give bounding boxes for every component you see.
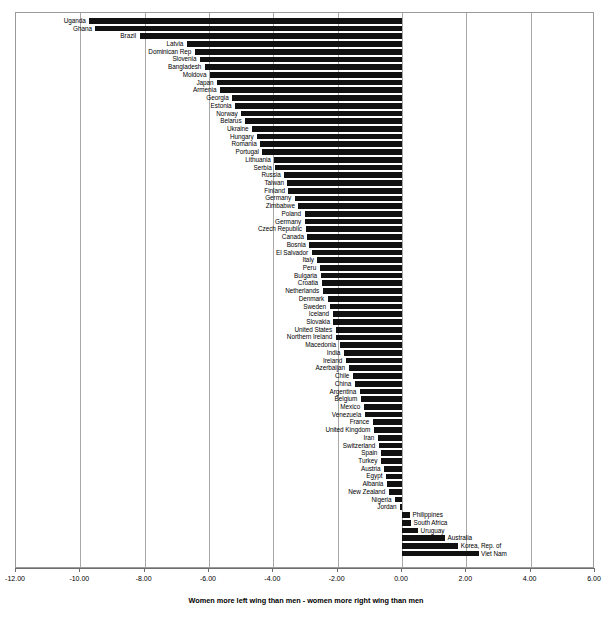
chart-row: Ghana: [16, 25, 593, 33]
bar-label: Croatia: [298, 279, 318, 287]
chart-row: Austria: [16, 465, 593, 473]
bar-label: New Zealand: [348, 488, 385, 496]
bar-label: Brazil: [120, 32, 136, 40]
chart-row: Egypt: [16, 473, 593, 481]
bar-label: Philippines: [413, 511, 443, 519]
bar: [373, 419, 402, 425]
bar-label: Peru: [303, 264, 316, 272]
chart-root: UgandaGhanaBrazilLatviaDominican RepSlov…: [0, 0, 612, 621]
bar-label: Belgium: [335, 395, 358, 403]
bar: [317, 257, 402, 263]
bar: [386, 474, 402, 480]
bar: [295, 196, 402, 202]
bar-label: Iran: [364, 434, 375, 442]
x-axis-label: Women more left wing than men - women mo…: [0, 596, 612, 605]
chart-row: France: [16, 419, 593, 427]
bar: [365, 412, 402, 418]
chart-row: Venezuela: [16, 411, 593, 419]
bar-label: Venezuela: [332, 411, 361, 419]
bar: [381, 450, 402, 456]
chart-row: Uganda: [16, 17, 593, 25]
bar-label: Dominican Rep: [148, 48, 191, 56]
bar-label: Italy: [302, 256, 313, 264]
bar: [333, 311, 402, 317]
bar-label: Latvia: [167, 40, 184, 48]
bar-label: Germany: [265, 194, 291, 202]
chart-row: Philippines: [16, 511, 593, 519]
bar-label: Spain: [361, 449, 377, 457]
bar: [402, 528, 418, 534]
bar-label: Bangladesh: [168, 63, 201, 71]
bar: [274, 157, 402, 163]
bar: [349, 365, 402, 371]
bar: [364, 404, 402, 410]
bar: [217, 80, 402, 86]
bar: [328, 296, 402, 302]
plot-area: UgandaGhanaBrazilLatviaDominican RepSlov…: [15, 12, 594, 568]
bar-label: Austria: [361, 465, 381, 473]
bar-label: Georgia: [206, 94, 228, 102]
bar: [95, 26, 402, 32]
chart-row: Switzerland: [16, 442, 593, 450]
x-tick: [272, 568, 273, 572]
chart-row: Australia: [16, 535, 593, 543]
chart-row: Slovenia: [16, 56, 593, 64]
bar-label: Lithuania: [245, 156, 271, 164]
bar-series: UgandaGhanaBrazilLatviaDominican RepSlov…: [16, 13, 593, 567]
bar: [402, 512, 410, 518]
bar: [389, 489, 402, 495]
chart-row: Dominican Rep: [16, 48, 593, 56]
bar-label: Ukraine: [227, 125, 249, 133]
bar: [257, 134, 402, 140]
bar: [320, 265, 402, 271]
bar: [323, 288, 402, 294]
chart-row: Bangladesh: [16, 64, 593, 72]
bar-label: India: [327, 349, 341, 357]
bar: [360, 389, 402, 395]
chart-row: Macedonia: [16, 342, 593, 350]
bar: [330, 304, 402, 310]
bar: [307, 234, 402, 240]
bar: [340, 342, 402, 348]
x-tick: [401, 568, 402, 572]
bar-label: Japan: [196, 79, 213, 87]
chart-row: Ukraine: [16, 125, 593, 133]
bar-label: Iceland: [309, 310, 329, 318]
bar: [287, 180, 402, 186]
bar: [395, 497, 402, 503]
bar: [195, 49, 402, 55]
x-tick: [15, 568, 16, 572]
bar-label: Viet Nam: [481, 550, 507, 558]
chart-row: Poland: [16, 210, 593, 218]
bar-label: El Salvador: [276, 249, 308, 257]
bar: [305, 219, 402, 225]
bar: [200, 57, 402, 63]
chart-row: Georgia: [16, 94, 593, 102]
bar-label: Chile: [335, 372, 349, 380]
bar-label: Norway: [216, 110, 237, 118]
chart-row: Iran: [16, 434, 593, 442]
chart-row: India: [16, 349, 593, 357]
bar-label: Canada: [282, 233, 304, 241]
bar: [235, 103, 402, 109]
bar-label: Hungary: [230, 133, 254, 141]
chart-row: Spain: [16, 450, 593, 458]
bar-label: France: [350, 418, 370, 426]
bar-label: Ireland: [323, 357, 342, 365]
chart-row: Germany: [16, 218, 593, 226]
bar: [210, 72, 402, 78]
chart-row: New Zealand: [16, 488, 593, 496]
bar: [353, 373, 402, 379]
bar: [89, 18, 402, 24]
chart-row: Hungary: [16, 133, 593, 141]
bar: [378, 435, 402, 441]
bar: [402, 551, 479, 557]
bar-label: Belarus: [220, 117, 241, 125]
bar-label: Portugal: [236, 148, 259, 156]
bar-label: Armenia: [193, 86, 216, 94]
chart-row: Zimbabwe: [16, 203, 593, 211]
bar: [260, 141, 402, 147]
bar-label: South Africa: [414, 519, 448, 527]
chart-row: Latvia: [16, 40, 593, 48]
bar-label: Switzerland: [343, 442, 375, 450]
